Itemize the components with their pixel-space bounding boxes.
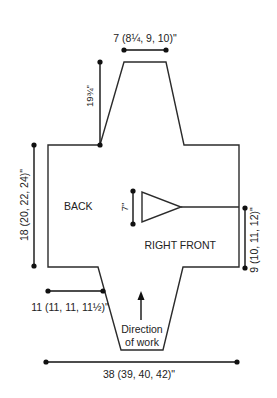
collar-width-label: 7 (8¼, 9, 10)"	[113, 32, 177, 44]
collar-width-dimension: 7 (8¼, 9, 10)"	[113, 32, 177, 53]
shoulder-slope-dimension: 19¾"	[84, 59, 103, 147]
sleeve-cuff-label: 11 (11, 11, 11½)"	[31, 301, 109, 313]
direction-label-line2: of work	[125, 336, 160, 348]
armhole-depth-dimension: 7"	[119, 188, 136, 226]
total-width-dimension: 38 (39, 40, 42)"	[43, 359, 239, 380]
right-front-label: RIGHT FRONT	[144, 239, 216, 251]
back-label: BACK	[64, 200, 93, 212]
back-length-dimension: 18 (20, 22, 24)"	[18, 142, 37, 268]
armhole-depth-label: 7"	[119, 203, 130, 212]
back-length-label: 18 (20, 22, 24)"	[18, 169, 30, 241]
shoulder-slope-label: 19¾"	[84, 85, 95, 107]
armhole-triangle	[142, 192, 181, 222]
sleeve-cuff-dimension: 11 (11, 11, 11½)"	[31, 288, 109, 313]
total-width-label: 38 (39, 40, 42)"	[103, 368, 175, 380]
up-arrow-icon	[138, 291, 145, 320]
direction-label-line1: Direction	[121, 323, 163, 335]
schematic-diagram: 7 (8¼, 9, 10)" 19¾" 18 (20, 22, 24)" 7" …	[0, 0, 277, 398]
right-front-length-label: 9 (10, 11, 12)"	[248, 207, 260, 273]
right-front-length-dimension: 9 (10, 11, 12)"	[242, 205, 260, 272]
